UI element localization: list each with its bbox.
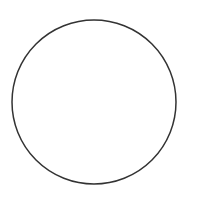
diagram-canvas <box>0 0 198 208</box>
circle-outline <box>12 20 176 184</box>
diagram-svg <box>0 0 198 208</box>
